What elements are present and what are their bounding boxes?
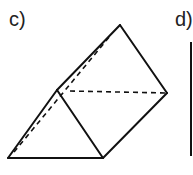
visible-edge xyxy=(8,90,57,158)
hidden-edge xyxy=(70,91,167,93)
visible-edge xyxy=(120,25,167,93)
triangular-prism-figure xyxy=(0,0,193,175)
hidden-edge xyxy=(14,36,110,152)
visible-edge xyxy=(103,93,167,158)
visible-edge xyxy=(57,90,103,158)
visible-edge xyxy=(57,25,120,90)
